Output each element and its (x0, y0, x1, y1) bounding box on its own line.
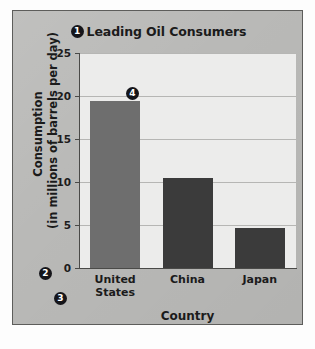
y-axis-tick-label: 0 (45, 262, 71, 274)
callout-badge-3: 3 (54, 292, 67, 305)
gridline (79, 96, 296, 97)
y-axis-tick-mark (75, 225, 79, 226)
x-axis-tick-label-united-states: UnitedStates (79, 273, 151, 299)
bar-japan (235, 228, 285, 268)
y-axis-tick-label: 10 (45, 176, 71, 188)
y-axis-tick-mark (75, 139, 79, 140)
y-axis-tick-label: 20 (45, 90, 71, 102)
y-axis-line (79, 53, 80, 269)
y-axis-tick-label: 5 (45, 219, 71, 231)
x-axis-title: Country (79, 309, 296, 323)
bar-united-states (90, 101, 140, 268)
chart-title-text: Leading Oil Consumers (84, 24, 247, 39)
y-axis-title-line-1: Consumption (31, 39, 46, 229)
callout-badge-4: 4 (126, 87, 139, 100)
callout-badge-1: 1 (71, 25, 84, 38)
chart-figure: 1Leading Oil Consumers Consumption (in m… (0, 0, 315, 349)
y-axis-tick-mark (75, 96, 79, 97)
y-axis-tick-label: 25 (45, 47, 71, 59)
x-axis-tick-label-line: Japan (224, 273, 296, 286)
x-axis-tick-label-line: China (151, 273, 223, 286)
x-axis-line (79, 268, 297, 269)
y-axis-tick-mark (75, 53, 79, 54)
x-axis-tick-label-line: States (79, 286, 151, 299)
gridline (79, 53, 296, 54)
bar-china (163, 178, 213, 268)
x-axis-tick-label-line: United (79, 273, 151, 286)
y-axis-tick-mark (75, 268, 79, 269)
x-axis-tick-label-china: China (151, 273, 223, 286)
y-axis-tick-label: 15 (45, 133, 71, 145)
plot-area (79, 53, 296, 268)
y-axis-tick-mark (75, 182, 79, 183)
x-axis-tick-label-japan: Japan (224, 273, 296, 286)
chart-card: 1Leading Oil Consumers Consumption (in m… (12, 10, 303, 325)
